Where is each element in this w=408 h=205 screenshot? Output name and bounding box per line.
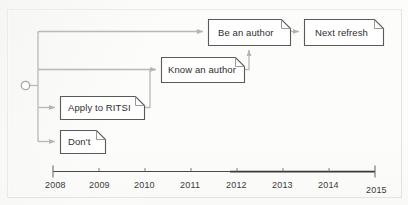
timeline-axis	[53, 166, 375, 178]
node-label-be-an-author: Be an author	[218, 28, 274, 38]
axis-label-2008: 2008	[45, 181, 66, 190]
axis-label-2010: 2010	[134, 181, 155, 190]
start-circle	[21, 81, 29, 89]
axis-label-2011: 2011	[180, 181, 200, 190]
node-label-dont: Don't	[68, 137, 90, 147]
diagram-canvas: Be an author Next refresh Know an author…	[0, 0, 408, 205]
node-label-apply-to-ritsi: Apply to RITSI	[68, 103, 131, 113]
axis-label-2014: 2014	[318, 181, 339, 190]
axis-label-2013: 2013	[272, 181, 293, 190]
node-label-next-refresh: Next refresh	[315, 28, 368, 38]
edge-apply-to-ritsi-to-know-an-author	[144, 70, 150, 108]
node-label-know-an-author: Know an author	[168, 65, 236, 75]
axis-label-2009: 2009	[89, 181, 110, 190]
axis-label-2012: 2012	[226, 181, 247, 190]
axis-label-2015: 2015	[366, 186, 387, 195]
